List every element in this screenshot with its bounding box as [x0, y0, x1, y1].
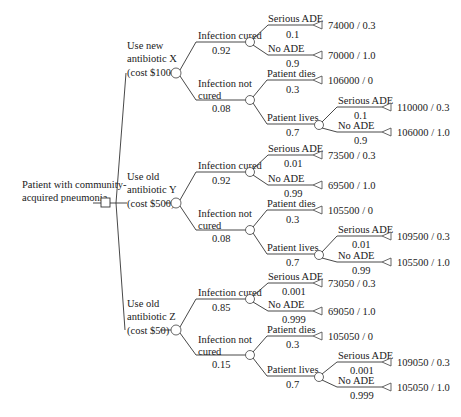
lives-label: Patient lives — [267, 242, 319, 253]
terminal-node-icon — [313, 307, 322, 315]
not-cured-label-line1: Infection not — [198, 78, 252, 89]
chance-node[interactable] — [171, 68, 181, 78]
lives-label: Patient lives — [267, 364, 319, 375]
serious-ade-label: Serious ADE — [268, 13, 323, 24]
branch-line — [180, 333, 196, 355]
branch-line — [322, 258, 337, 262]
payoff: 105050 / 0 — [328, 331, 373, 342]
payoff: 109050 / 0.3 — [397, 357, 450, 368]
terminal-node-icon — [313, 181, 322, 189]
root-label-line1: Patient with community- — [22, 179, 127, 190]
strategy-label-line2: antibiotic Z — [127, 311, 176, 322]
serious-ade-label: Serious ADE — [338, 350, 393, 361]
chance-node[interactable] — [171, 325, 181, 335]
strategy-label-line2: antibiotic Y — [127, 184, 177, 195]
branch-line — [180, 172, 196, 200]
strategy-label-line1: Use old — [127, 298, 160, 309]
dies-prob: 0.3 — [286, 84, 299, 95]
strategy-label-line1: Use new — [127, 40, 164, 51]
payoff: 105500 / 1.0 — [397, 257, 450, 268]
branch-line — [253, 45, 268, 55]
root-label-line2: acquired pneumonia — [22, 192, 108, 203]
cured-prob: 0.92 — [212, 45, 230, 56]
not-cured-label-line2: cured — [198, 220, 222, 231]
branch-line — [180, 76, 196, 100]
payoff: 106000 / 1.0 — [397, 127, 450, 138]
dies-label: Patient dies — [267, 324, 316, 335]
serious-ade-label: Serious ADE — [268, 271, 323, 282]
not-cured-label-line2: cured — [198, 90, 222, 101]
branch-line — [322, 380, 337, 387]
root-node-group: Patient with community- acquired pneumon… — [22, 73, 127, 330]
not-cured-label-line1: Infection not — [198, 334, 252, 345]
decision-node-square[interactable] — [101, 198, 110, 207]
branch-line — [322, 236, 337, 252]
no-ade-label: No ADE — [268, 43, 304, 54]
strategy-label-line1: Use old — [127, 171, 160, 182]
payoff: 69500 / 1.0 — [328, 180, 376, 191]
terminal-node-icon — [382, 258, 391, 266]
terminal-node-icon — [382, 383, 391, 391]
lives-prob: 0.7 — [286, 127, 299, 138]
strategy-y: Use old antibiotic Y (cost $500) Infecti… — [125, 143, 450, 276]
branch-line — [322, 107, 337, 122]
dies-prob: 0.3 — [286, 339, 299, 350]
chance-node[interactable] — [171, 198, 181, 208]
lives-prob: 0.7 — [286, 257, 299, 268]
serious-ade-prob: 0.1 — [286, 29, 299, 40]
serious-ade-prob: 0.001 — [282, 286, 306, 297]
branch-line — [253, 302, 268, 311]
branch-line — [253, 175, 268, 185]
not-cured-prob: 0.08 — [212, 103, 230, 114]
not-cured-label-line1: Infection not — [198, 208, 252, 219]
payoff: 106000 / 0 — [328, 75, 373, 86]
strategy-x: Use new antibiotic X (cost $1000) Infect… — [127, 13, 450, 146]
strategy-z: Use old antibiotic Z (cost $50) Infectio… — [127, 271, 450, 401]
branch-line — [180, 42, 196, 70]
cured-prob: 0.85 — [212, 302, 230, 313]
branch-line — [253, 210, 267, 227]
branch-line — [322, 128, 337, 132]
payoff: 105500 / 0 — [328, 205, 373, 216]
no-ade-label: No ADE — [338, 250, 374, 261]
payoff: 109500 / 0.3 — [397, 231, 450, 242]
payoff: 73500 / 0.3 — [328, 150, 376, 161]
serious-ade-label: Serious ADE — [268, 143, 323, 154]
lives-prob: 0.7 — [286, 379, 299, 390]
no-ade-prob: 0.999 — [350, 390, 374, 401]
branch-line — [253, 233, 267, 254]
no-ade-prob: 0.9 — [354, 135, 367, 146]
dies-label: Patient dies — [267, 198, 316, 209]
not-cured-label-line2: cured — [198, 346, 222, 357]
branch-line — [322, 362, 337, 374]
serious-ade-label: Serious ADE — [338, 95, 393, 106]
no-ade-prob: 0.99 — [352, 265, 370, 276]
strategy-label-line3: (cost $500) — [127, 198, 175, 210]
branch-line — [253, 358, 267, 376]
strategy-label-line2: antibiotic X — [127, 53, 177, 64]
branch-line — [180, 299, 196, 327]
serious-ade-prob: 0.01 — [352, 239, 370, 250]
dies-label: Patient dies — [267, 68, 316, 79]
terminal-node-icon — [313, 51, 322, 59]
terminal-node-icon — [382, 128, 391, 136]
payoff: 73050 / 0.3 — [328, 278, 376, 289]
payoff: 74000 / 0.3 — [328, 20, 376, 31]
branch-line — [180, 206, 196, 230]
branch-line-z — [116, 203, 125, 330]
payoff: 110000 / 0.3 — [397, 102, 449, 113]
no-ade-label: No ADE — [338, 375, 374, 386]
no-ade-label: No ADE — [338, 120, 374, 131]
not-cured-prob: 0.15 — [212, 359, 230, 370]
decision-tree: Patient with community- acquired pneumon… — [0, 0, 461, 417]
not-cured-prob: 0.08 — [212, 233, 230, 244]
cured-prob: 0.92 — [212, 175, 230, 186]
strategy-label-line3: (cost $50) — [127, 325, 170, 337]
payoff: 105050 / 1.0 — [397, 382, 450, 393]
branch-line — [253, 80, 267, 97]
serious-ade-label: Serious ADE — [338, 224, 393, 235]
payoff: 69050 / 1.0 — [328, 306, 376, 317]
payoff: 70000 / 1.0 — [328, 50, 376, 61]
lives-label: Patient lives — [267, 112, 319, 123]
branch-line — [253, 103, 267, 124]
